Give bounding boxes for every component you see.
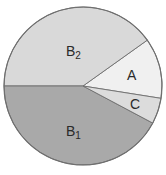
label-a: A — [127, 67, 137, 83]
label-c: C — [130, 96, 140, 112]
pie-chart: B2 A C B1 — [0, 0, 166, 175]
pie-slices — [4, 7, 162, 165]
